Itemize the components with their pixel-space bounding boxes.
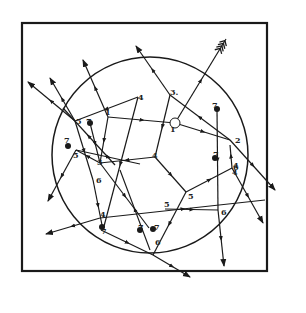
direction-arrow-icon — [72, 226, 74, 227]
direction-arrow-icon — [88, 136, 89, 137]
vertex-label: 7 — [138, 222, 144, 232]
direction-arrow-icon — [124, 195, 125, 197]
direction-arrow-icon — [171, 265, 173, 266]
vertex-label: 5 — [73, 150, 79, 160]
direction-arrow-icon — [170, 174, 171, 175]
arrow-fletching-icon — [220, 48, 221, 53]
direction-arrow-icon — [51, 101, 53, 102]
direction-arrow-icon — [120, 163, 121, 165]
direction-arrow-icon — [200, 80, 201, 82]
vertex-label: 7 — [86, 116, 92, 126]
vertex-label: 4 — [100, 209, 106, 219]
vertex-label: 4 — [138, 92, 144, 102]
vertex-label: 3 — [97, 157, 103, 167]
direction-arrow-icon — [202, 131, 204, 132]
vertex-labels: 123.4517753467674564777564 — [64, 87, 241, 247]
vertex-label: 3. — [170, 87, 179, 97]
vertex-label: 4 — [152, 150, 158, 160]
vertex-label: 7 — [212, 100, 218, 110]
vertex-label: 7 — [64, 135, 70, 145]
direction-arrow-icon — [252, 164, 253, 165]
arrow-fletching-icon — [222, 46, 223, 51]
vertex-label: 6 — [155, 237, 161, 247]
vertex-label: 2 — [235, 135, 241, 145]
direction-arrow-icon — [62, 99, 63, 101]
direction-arrow-icon — [152, 70, 153, 72]
vertex-label: 5 — [164, 199, 170, 209]
ray-diagram: 123.4517753467674564777564 — [0, 0, 306, 313]
vertex-label: 1 — [105, 107, 111, 117]
vertex-label: 7 — [101, 226, 107, 236]
direction-arrow-icon — [135, 209, 136, 211]
vertex-label: 4 — [232, 167, 238, 177]
diagram-canvas: 123.4517753467674564777564 — [0, 0, 306, 313]
vertex-label: 7 — [154, 222, 160, 232]
arrow-fletching-icon — [225, 41, 226, 46]
vertex-label: 6 — [221, 207, 227, 217]
direction-arrow-icon — [199, 117, 201, 118]
vertex-label: 6 — [96, 175, 102, 185]
vertex-label: 7 — [213, 149, 219, 159]
vertex-label: 5 — [76, 116, 82, 126]
arrow-fletching-icon — [223, 43, 224, 48]
vertex-label: 5 — [188, 191, 194, 201]
vertex-label: 1 — [170, 124, 176, 134]
